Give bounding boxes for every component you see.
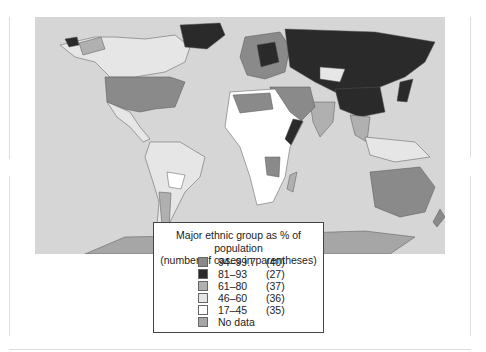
frame-line [9, 349, 471, 350]
legend-row: 94–99.7 (40) [198, 256, 285, 268]
legend-row: No data [198, 316, 285, 328]
frame-line [470, 176, 471, 336]
legend-range: 61–80 [218, 280, 266, 292]
legend-row: 61–80 (37) [198, 280, 285, 292]
legend-count: (40) [266, 256, 285, 268]
frame-line [9, 176, 10, 336]
legend-range: 46–60 [218, 292, 266, 304]
legend-count: (36) [266, 292, 285, 304]
legend-row: 81–93 (27) [198, 268, 285, 280]
legend-range: 81–93 [218, 268, 266, 280]
legend-count: (27) [266, 268, 285, 280]
legend-row: 17–45 (35) [198, 304, 285, 316]
swatch-icon [198, 293, 208, 303]
frame-line [9, 17, 10, 159]
swatch-icon [198, 269, 208, 279]
map-legend: Major ethnic group as % of population (n… [153, 222, 324, 333]
swatch-icon [198, 281, 208, 291]
legend-count: (37) [266, 280, 285, 292]
legend-range: No data [218, 316, 266, 328]
swatch-icon [198, 317, 208, 327]
legend-row: 46–60 (36) [198, 292, 285, 304]
legend-range: 94–99.7 [218, 256, 266, 268]
frame-line [470, 17, 471, 157]
legend-title-line1: Major ethnic group as % of population [154, 229, 323, 254]
legend-count: (35) [266, 304, 285, 316]
world-map [35, 17, 445, 254]
swatch-icon [198, 305, 208, 315]
legend-range: 17–45 [218, 304, 266, 316]
swatch-icon [198, 257, 208, 267]
world-map-shapes [35, 17, 445, 254]
